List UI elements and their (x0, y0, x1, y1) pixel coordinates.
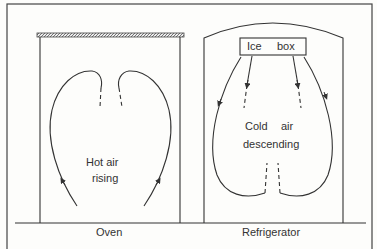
fridge-annotation-descending: descending (243, 138, 299, 150)
diagram-drawing (0, 0, 377, 249)
convection-diagram: Hot air rising Oven Ice box Cold air des… (0, 0, 377, 249)
fridge-annotation-cold: Cold (245, 120, 268, 132)
refrigerator-drawing (204, 23, 343, 223)
oven-annotation-line1: Hot air (86, 156, 118, 168)
fridge-annotation-air: air (281, 120, 293, 132)
oven-heating-element (37, 33, 184, 37)
oven-drawing (37, 33, 184, 223)
oven-label: Oven (96, 226, 122, 238)
icebox-label-box: box (277, 40, 295, 52)
icebox-label-ice: Ice (247, 40, 262, 52)
outer-frame (7, 4, 372, 249)
refrigerator-label: Refrigerator (242, 226, 300, 238)
oven-annotation-line2: rising (92, 172, 118, 184)
